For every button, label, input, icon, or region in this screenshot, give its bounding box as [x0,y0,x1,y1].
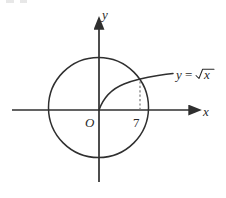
tick-label-7: 7 [133,115,140,130]
equation-radicand: x [203,67,210,82]
coordinate-figure: O 7 x y y = x [0,0,226,198]
figure-container: O 7 x y y = x [0,0,226,198]
curve-equation-group: y = x [174,67,214,82]
origin-label: O [85,115,95,130]
equation-lhs: y [174,67,182,82]
equation-equals: = [185,67,192,82]
x-axis-label: x [202,104,209,119]
y-axis-label: y [100,7,108,22]
sqrt-curve [99,74,173,110]
